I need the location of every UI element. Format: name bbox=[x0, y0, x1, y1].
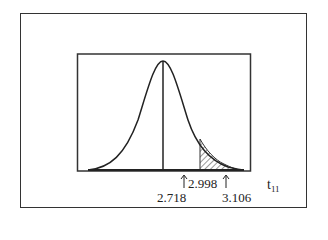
upper-marker-label: 3.106 bbox=[222, 191, 251, 204]
shaded-tail-region bbox=[200, 139, 241, 170]
plot-frame bbox=[78, 54, 251, 171]
density-curve bbox=[88, 61, 244, 170]
lower-marker-label: 2.998 bbox=[188, 177, 217, 190]
axis-label: t11 bbox=[267, 178, 280, 194]
center-value-label: 2.718 bbox=[157, 191, 186, 204]
